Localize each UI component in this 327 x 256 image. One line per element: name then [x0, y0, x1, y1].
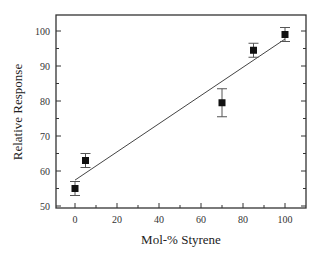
x-tick-label: 20	[112, 214, 122, 225]
fit-line	[75, 39, 285, 180]
data-point	[249, 43, 259, 57]
data-points	[70, 28, 290, 196]
y-tick-label: 100	[35, 26, 50, 37]
y-tick-label: 90	[40, 61, 50, 72]
y-tick-label: 80	[40, 96, 50, 107]
x-tick-label: 40	[154, 214, 164, 225]
x-tick-label: 0	[73, 214, 78, 225]
y-tick-label: 50	[40, 201, 50, 212]
x-tick-label: 80	[238, 214, 248, 225]
x-axis: 020406080100	[73, 203, 293, 225]
y-axis-label: Relative Response	[10, 64, 25, 161]
data-point	[217, 89, 227, 117]
data-point	[81, 154, 91, 168]
y-axis: 5060708090100	[35, 26, 306, 212]
data-point	[280, 28, 290, 42]
x-axis-label: Mol-% Styrene	[141, 232, 221, 247]
plot-frame	[56, 15, 306, 208]
y-tick-label: 60	[40, 166, 50, 177]
x-tick-label: 60	[196, 214, 206, 225]
x-tick-label: 100	[278, 214, 293, 225]
y-tick-label: 70	[40, 131, 50, 142]
data-point	[70, 182, 80, 196]
chart-canvas: 5060708090100 020406080100 Mol-% Styrene…	[0, 0, 327, 256]
